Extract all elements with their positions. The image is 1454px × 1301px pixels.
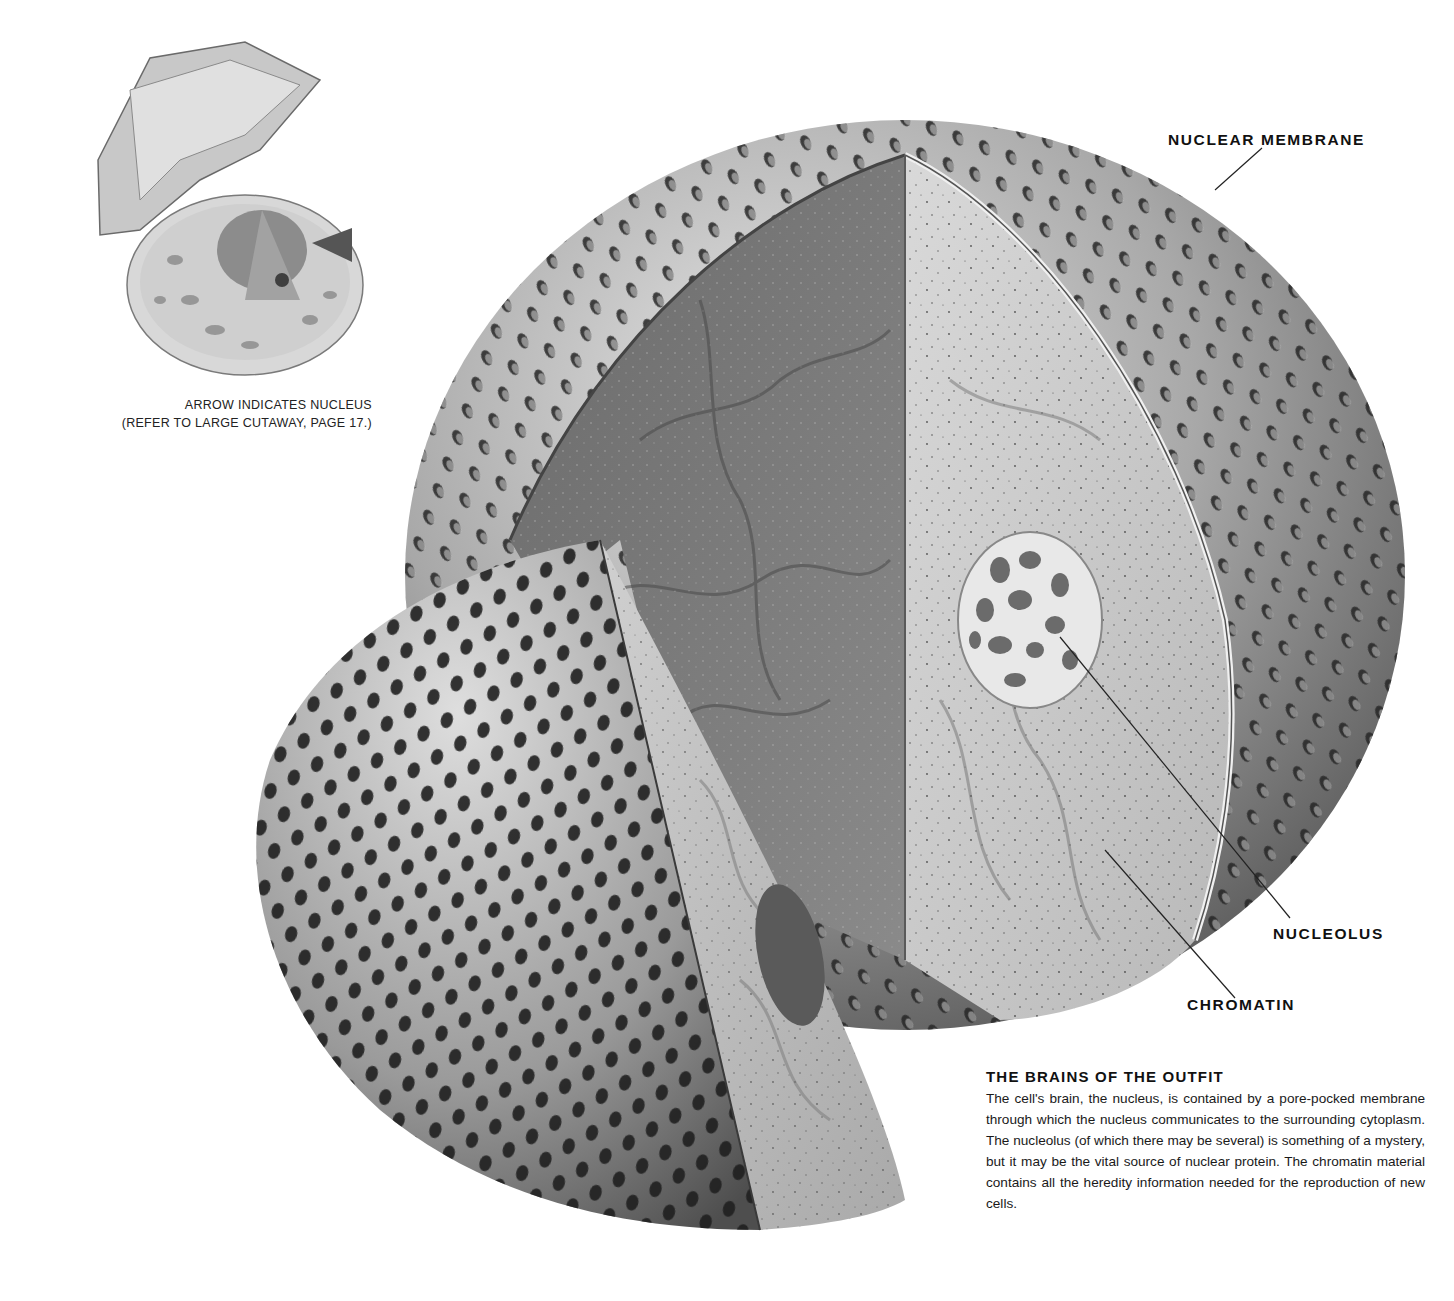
article-body: The cell's brain, the nucleus, is contai… xyxy=(986,1088,1425,1214)
article-title: THE BRAINS OF THE OUTFIT xyxy=(986,1067,1425,1086)
thumbnail-caption-line2: (REFER TO LARGE CUTAWAY, PAGE 17.) xyxy=(90,414,372,432)
thumbnail-caption-line1: ARROW INDICATES NUCLEUS xyxy=(90,396,372,414)
label-nuclear-membrane: NUCLEAR MEMBRANE xyxy=(1168,131,1365,149)
thumbnail-cell-illustration xyxy=(98,42,363,375)
label-chromatin: CHROMATIN xyxy=(1187,996,1295,1014)
thumbnail-caption: ARROW INDICATES NUCLEUS (REFER TO LARGE … xyxy=(90,396,372,432)
article-block: THE BRAINS OF THE OUTFIT The cell's brai… xyxy=(986,1067,1425,1214)
label-nucleolus: NUCLEOLUS xyxy=(1273,925,1384,943)
